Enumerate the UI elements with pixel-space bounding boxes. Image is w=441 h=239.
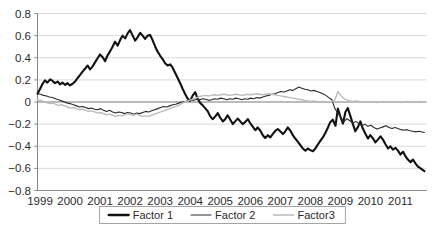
x-tick-label: 2004 xyxy=(177,195,203,207)
x-tick-label: 2000 xyxy=(57,195,83,207)
chart-legend[interactable]: Factor 1Factor 2Factor3 xyxy=(100,207,346,224)
chart-svg: 0.80.60.40.20−0.2−0.4−0.6−0.8 1999200020… xyxy=(0,0,441,239)
x-tick-label: 1999 xyxy=(27,195,53,207)
x-tick-label: 2007 xyxy=(268,195,294,207)
data-series-lines xyxy=(38,30,425,171)
x-tick-label: 2008 xyxy=(298,195,324,207)
y-tick-label: −0.2 xyxy=(8,118,31,130)
y-axis xyxy=(34,14,37,191)
x-tick-label: 2001 xyxy=(87,195,113,207)
x-tick-label: 2002 xyxy=(117,195,143,207)
series-line-factor-2 xyxy=(38,87,425,132)
x-tick-label: 2009 xyxy=(328,195,354,207)
factor-timeseries-chart: 0.80.60.40.20−0.2−0.4−0.6−0.8 1999200020… xyxy=(0,0,441,239)
x-tick-label: 2005 xyxy=(207,195,233,207)
y-tick-label: 0.2 xyxy=(15,74,31,86)
chart-canvas: 0.80.60.40.20−0.2−0.4−0.6−0.8 1999200020… xyxy=(0,0,441,239)
y-tick-label: 0.8 xyxy=(15,8,31,20)
x-tick-label: 2006 xyxy=(237,195,263,207)
y-tick-label: 0.6 xyxy=(15,30,31,42)
x-axis-tick-labels: 1999200020012002200320042005200620072008… xyxy=(27,195,413,207)
y-tick-label: 0.4 xyxy=(15,52,32,64)
x-tick-label: 2003 xyxy=(147,195,173,207)
y-tick-label: −0.6 xyxy=(8,162,31,174)
x-tick-label: 2011 xyxy=(388,195,413,207)
series-line-factor-1 xyxy=(38,30,425,171)
y-axis-tick-labels: 0.80.60.40.20−0.2−0.4−0.6−0.8 xyxy=(8,8,31,197)
y-tick-label: 0 xyxy=(25,96,31,108)
legend-label-factor3[interactable]: Factor3 xyxy=(297,209,334,221)
y-tick-label: −0.4 xyxy=(8,140,31,152)
legend-label-factor-1[interactable]: Factor 1 xyxy=(133,209,173,221)
legend-label-factor-2[interactable]: Factor 2 xyxy=(215,209,255,221)
series-line-factor3 xyxy=(38,91,425,116)
x-tick-label: 2010 xyxy=(358,195,384,207)
